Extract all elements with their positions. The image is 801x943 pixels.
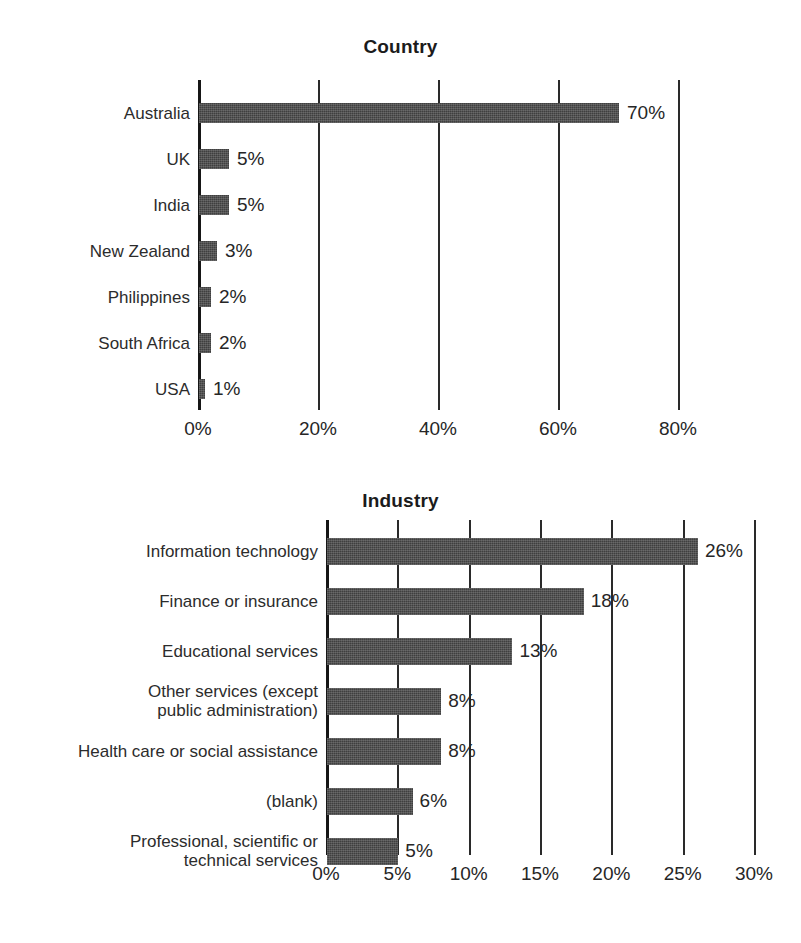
bar-value-label: 5%	[237, 195, 264, 214]
bar	[199, 379, 205, 399]
category-label: USA	[15, 380, 190, 399]
bar	[199, 149, 229, 169]
category-label: Other services (except public administra…	[18, 682, 318, 720]
bar	[199, 241, 217, 261]
bar	[199, 287, 211, 307]
industry-plot-area: 26%Information technology18%Finance or i…	[326, 520, 754, 855]
industry-chart-title: Industry	[0, 490, 801, 512]
bar	[199, 103, 619, 123]
bar	[327, 638, 512, 665]
bar	[327, 788, 413, 815]
gridline-30pct	[754, 520, 756, 855]
bar	[327, 738, 441, 765]
bar-value-label: 2%	[219, 333, 246, 352]
category-label: Information technology	[18, 542, 318, 561]
category-label: Health care or social assistance	[18, 742, 318, 761]
x-tick-label: 10%	[429, 863, 509, 885]
category-label: India	[15, 196, 190, 215]
bar-value-label: 2%	[219, 287, 246, 306]
x-tick-label: 20%	[278, 418, 358, 440]
x-tick-label: 40%	[398, 418, 478, 440]
bar	[327, 588, 584, 615]
bar-value-label: 8%	[448, 691, 475, 710]
bar	[327, 838, 398, 865]
bar	[199, 195, 229, 215]
country-plot-area: 70%Australia5%UK5%India3%New Zealand2%Ph…	[198, 80, 678, 410]
bar-value-label: 8%	[448, 741, 475, 760]
x-tick-label: 0%	[158, 418, 238, 440]
x-tick-label: 20%	[571, 863, 651, 885]
chart-page: { "page": { "background": "#ffffff", "ba…	[0, 0, 801, 943]
category-label: Professional, scientific or technical se…	[18, 832, 318, 870]
bar-value-label: 18%	[591, 591, 629, 610]
category-label: South Africa	[15, 334, 190, 353]
x-tick-label: 30%	[714, 863, 794, 885]
country-chart-title: Country	[0, 36, 801, 58]
x-tick-label: 80%	[638, 418, 718, 440]
x-tick-label: 60%	[518, 418, 598, 440]
bar-value-label: 26%	[705, 541, 743, 560]
x-tick-label: 25%	[643, 863, 723, 885]
bar-value-label: 70%	[627, 103, 665, 122]
bar-value-label: 3%	[225, 241, 252, 260]
bar-value-label: 13%	[519, 641, 557, 660]
category-label: Finance or insurance	[18, 592, 318, 611]
x-tick-label: 0%	[286, 863, 366, 885]
bar	[327, 538, 698, 565]
country-chart: Country 70%Australia5%UK5%India3%New Zea…	[0, 0, 801, 470]
category-label: Australia	[15, 104, 190, 123]
category-label: Educational services	[18, 642, 318, 661]
category-label: New Zealand	[15, 242, 190, 261]
gridline-80pct	[678, 80, 680, 410]
bar	[327, 688, 441, 715]
bar-value-label: 6%	[420, 791, 447, 810]
country-bar-rows: 70%Australia5%UK5%India3%New Zealand2%Ph…	[198, 80, 678, 410]
category-label: (blank)	[18, 792, 318, 811]
bar-value-label: 5%	[405, 841, 432, 860]
category-label: Philippines	[15, 288, 190, 307]
bar-value-label: 1%	[213, 379, 240, 398]
bar-value-label: 5%	[237, 149, 264, 168]
x-tick-label: 15%	[500, 863, 580, 885]
category-label: UK	[15, 150, 190, 169]
industry-bar-rows: 26%Information technology18%Finance or i…	[326, 520, 754, 855]
bar	[199, 333, 211, 353]
industry-chart: Industry 26%Information technology18%Fin…	[0, 470, 801, 943]
x-tick-label: 5%	[357, 863, 437, 885]
